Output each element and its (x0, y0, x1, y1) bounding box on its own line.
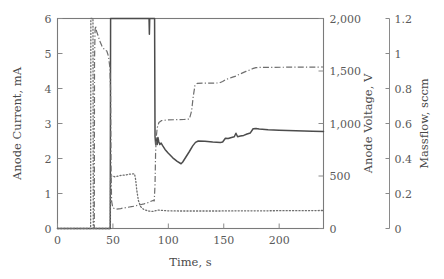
chart-canvas: 0123456 05001,0001,5002,000 00.20.40.60.… (0, 0, 444, 279)
left-tick-label: 2 (45, 153, 52, 166)
series-line (58, 19, 324, 229)
left-tick-label: 1 (45, 188, 52, 201)
plot-border (58, 19, 324, 229)
right-axis-massflow: 00.20.40.60.811.2 (386, 13, 413, 236)
voltage-tick-label: 500 (330, 170, 351, 183)
voltage-tick-label: 1,500 (330, 65, 362, 78)
left-axis: 0123456 (45, 13, 63, 236)
x-tick-label: 100 (158, 234, 179, 247)
massflow-tick-label: 1 (395, 48, 402, 61)
x-axis-title: Time, s (169, 255, 211, 269)
massflow-tick-label: 0.8 (395, 83, 413, 96)
massflow-tick-label: 0.4 (395, 153, 413, 166)
series-line (58, 19, 324, 229)
voltage-tick-label: 0 (330, 223, 337, 236)
series-line (58, 26, 324, 229)
massflow-tick-label: 0.6 (395, 118, 413, 131)
massflow-axis-title: Massflow, sccm (417, 78, 431, 169)
left-tick-label: 5 (45, 48, 52, 61)
x-tick-label: 50 (106, 234, 120, 247)
voltage-axis-title: Anode Voltage, V (361, 73, 375, 174)
voltage-tick-label: 1,000 (330, 118, 362, 131)
massflow-tick-label: 0 (395, 223, 402, 236)
plot-frame (58, 19, 324, 229)
left-tick-label: 6 (45, 13, 52, 26)
voltage-tick-label: 2,000 (330, 13, 362, 26)
x-tick-label: 150 (213, 234, 234, 247)
x-tick-label: 200 (269, 234, 290, 247)
left-tick-label: 3 (45, 118, 52, 131)
chart-figure: 0123456 05001,0001,5002,000 00.20.40.60.… (0, 0, 444, 279)
left-tick-label: 4 (45, 83, 52, 96)
massflow-tick-label: 1.2 (395, 13, 413, 26)
x-axis: 050100150200 (54, 224, 290, 247)
left-tick-label: 0 (45, 223, 52, 236)
massflow-tick-label: 0.2 (395, 188, 413, 201)
right-axis-voltage: 05001,0001,5002,000 (319, 13, 362, 236)
x-tick-label: 0 (54, 234, 61, 247)
left-axis-title: Anode Current, mA (10, 66, 24, 181)
data-series (58, 19, 324, 229)
